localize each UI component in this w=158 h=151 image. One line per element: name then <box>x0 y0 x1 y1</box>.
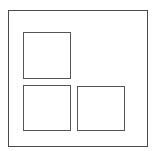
bottom-left-square <box>23 85 71 131</box>
top-left-square <box>23 32 71 79</box>
bottom-right-square <box>77 86 125 131</box>
